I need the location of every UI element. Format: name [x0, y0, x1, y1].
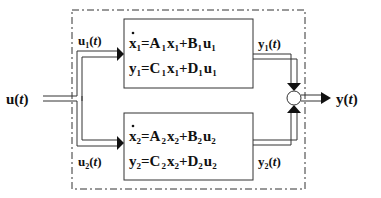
arrow-into-block-2 — [117, 136, 124, 150]
subsystem-2-block — [124, 113, 253, 180]
subsystem-1-block — [124, 19, 253, 88]
output-label-y2: y2(t) — [258, 154, 281, 171]
input-signal-line — [43, 51, 117, 146]
output-arrow — [321, 92, 331, 104]
derivative-dot — [132, 32, 135, 35]
block-2-output-equation: y2=C2x2+D2u2 — [129, 153, 217, 171]
summing-junction — [287, 91, 301, 105]
output-label: y(t) — [336, 91, 358, 108]
block-2-state-equation: x2=A2x2+B2u2 — [129, 125, 216, 146]
arrow-into-sum-bottom — [287, 105, 301, 113]
block-1-state-equation: x1=A1x1+B1u1 — [129, 32, 216, 53]
svg-text:y1=C1x1+D1u1: y1=C1x1+D1u1 — [129, 60, 217, 78]
arrow-into-block-1 — [117, 47, 124, 61]
branch-label-u1: u1(t) — [78, 33, 102, 50]
parallel-system-diagram: u(t) y(t) u1(t) u2(t) y1(t) y2(t) x1=A1x… — [0, 0, 381, 198]
output-label-y1: y1(t) — [258, 36, 281, 53]
svg-text:x2=A2x2+B2u2: x2=A2x2+B2u2 — [129, 128, 216, 146]
branch-label-u2: u2(t) — [78, 154, 102, 171]
input-label: u(t) — [6, 91, 29, 108]
output-signal-line — [301, 95, 322, 101]
arrow-into-sum-top — [287, 83, 301, 91]
block-1-output-equation: y1=C1x1+D1u1 — [129, 60, 217, 78]
derivative-dot — [132, 125, 135, 128]
svg-text:x1=A1x1+B1u1: x1=A1x1+B1u1 — [129, 35, 216, 53]
svg-text:y2=C2x2+D2u2: y2=C2x2+D2u2 — [129, 153, 217, 171]
